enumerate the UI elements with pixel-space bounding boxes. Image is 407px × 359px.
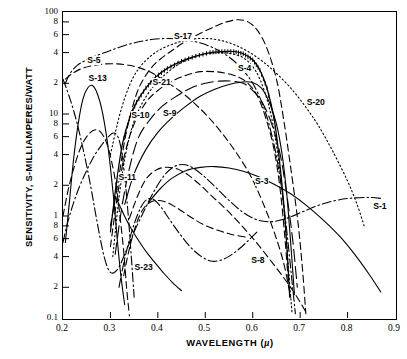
y-tick-label: 6 xyxy=(2,29,58,39)
y-tick-label: 8 xyxy=(2,16,58,26)
x-tick-label: 0.6 xyxy=(232,323,272,333)
curve-label-s-8: S-8 xyxy=(251,256,265,265)
curve-label-s-21: S-21 xyxy=(152,78,171,87)
y-tick-label: 0.1 xyxy=(2,312,58,322)
curve-label-s-5: S-5 xyxy=(87,56,101,65)
curve-label-s-13: S-13 xyxy=(88,74,107,83)
curve-label-s-4: S-4 xyxy=(237,64,251,73)
y-tick-label: 100 xyxy=(2,6,58,16)
curve-label-s-10: S-10 xyxy=(131,111,150,120)
y-tick-label: 4 xyxy=(2,251,58,261)
y-axis-tick-labels: 1008642108642186420.1 xyxy=(0,11,58,320)
spectral-response-chart: SENSITIVITY, S-MILLIAMPERES/WATT 1008642… xyxy=(0,0,407,359)
curve-label-s-11: S-11 xyxy=(118,173,137,182)
x-tick-label: 0.3 xyxy=(89,323,129,333)
y-tick-label: 6 xyxy=(2,233,58,243)
y-tick-label: 4 xyxy=(2,47,58,57)
y-tick-label: 8 xyxy=(2,220,58,230)
plot-area xyxy=(62,11,397,320)
curve-label-s-3: S-3 xyxy=(255,177,269,186)
x-tick-label: 0.5 xyxy=(184,323,224,333)
y-tick-label: 1 xyxy=(2,210,58,220)
y-tick-label: 6 xyxy=(2,131,58,141)
curve-s-23 xyxy=(115,197,181,291)
x-tick-label: 0.7 xyxy=(279,323,319,333)
curve-label-s-17: S-17 xyxy=(173,32,192,41)
y-tick-label: 4 xyxy=(2,149,58,159)
curve-label-s-20: S-20 xyxy=(306,98,325,107)
curve-label-s-23: S-23 xyxy=(134,263,153,272)
x-axis-tick-labels: 0.20.30.40.50.60.70.80.9 xyxy=(62,323,397,339)
curve-label-s-9: S-9 xyxy=(163,109,177,118)
x-tick-label: 0.9 xyxy=(374,323,407,333)
y-tick-label: 2 xyxy=(2,77,58,87)
x-tick-label: 0.8 xyxy=(327,323,367,333)
y-tick-label: 2 xyxy=(2,179,58,189)
x-axis-title: WAVELENGTH (μ) xyxy=(62,338,398,348)
curves-svg xyxy=(63,12,395,318)
y-tick-label: 10 xyxy=(2,108,58,118)
y-tick-label: 8 xyxy=(2,118,58,128)
x-tick-label: 0.4 xyxy=(137,323,177,333)
y-tick-label: 2 xyxy=(2,281,58,291)
x-tick-label: 0.2 xyxy=(42,323,82,333)
curve-label-s-1: S-1 xyxy=(373,202,387,211)
curve-s-4-markers xyxy=(124,49,276,140)
